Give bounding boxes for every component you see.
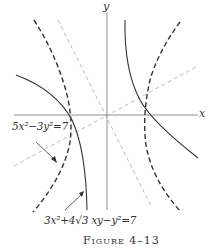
dashed-label-arrow	[36, 142, 55, 160]
solid-label-arrow	[65, 194, 82, 210]
dashed-curve-equation: 5x²−3y²=7	[12, 120, 68, 132]
rotated-axis-shallow	[14, 67, 196, 166]
dashed-hyperbola-left-branch	[33, 20, 71, 212]
x-axis-label: x	[199, 107, 205, 120]
y-axis-label: y	[103, 0, 109, 13]
rotated-axis-steep	[58, 20, 152, 208]
solid-curve-equation: 3x²+4√3 xy−y²=7	[44, 214, 136, 226]
dashed-hyperbola-right-branch	[145, 22, 181, 212]
solid-hyperbola-upper-branch	[125, 20, 198, 158]
figure-caption: Figure 4–13	[83, 234, 160, 247]
solid-hyperbola-lower-branch	[16, 75, 87, 210]
